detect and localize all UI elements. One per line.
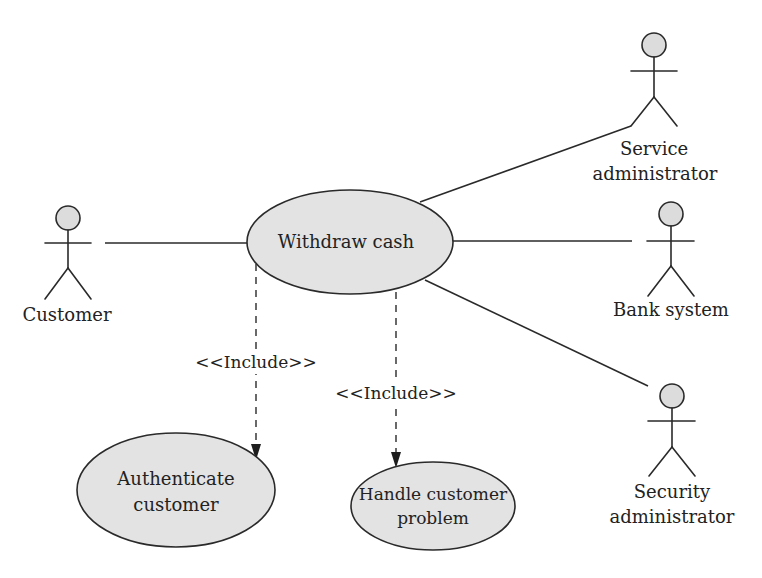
actor-security-administrator-label-line2: administrator xyxy=(610,506,735,527)
usecase-handle-customer-problem[interactable]: Handle customer problem xyxy=(351,462,515,550)
stick-figure-icon xyxy=(45,206,91,299)
use-case-diagram: <<Include>> <<Include>> Withdraw cash Au… xyxy=(0,0,762,578)
usecase-handle-customer-problem-ellipse xyxy=(351,462,515,550)
usecase-withdraw-cash[interactable]: Withdraw cash xyxy=(247,190,453,294)
actor-service-administrator[interactable]: Service administrator xyxy=(593,33,718,184)
usecase-authenticate-customer-ellipse xyxy=(77,433,275,547)
actor-customer-label: Customer xyxy=(23,304,112,325)
actor-service-administrator-label-line2: administrator xyxy=(593,163,718,184)
usecase-handle-customer-problem-label-line2: problem xyxy=(397,508,469,528)
association-withdraw-security-admin xyxy=(425,280,648,386)
actor-bank-system[interactable]: Bank system xyxy=(613,202,729,320)
actor-customer[interactable]: Customer xyxy=(23,206,112,325)
usecase-authenticate-customer[interactable]: Authenticate customer xyxy=(77,433,275,547)
include-label-handle-problem: <<Include>> xyxy=(335,381,457,405)
include-label-authenticate: <<Include>> xyxy=(195,350,317,374)
usecase-withdraw-cash-label: Withdraw cash xyxy=(278,231,415,252)
stick-figure-icon xyxy=(647,202,694,296)
usecase-authenticate-customer-label-line1: Authenticate xyxy=(116,468,234,489)
actor-security-administrator[interactable]: Security administrator xyxy=(610,384,735,527)
usecase-handle-customer-problem-label-line1: Handle customer xyxy=(359,484,508,504)
include-label-authenticate-text: <<Include>> xyxy=(195,352,317,372)
include-label-handle-problem-text: <<Include>> xyxy=(335,383,457,403)
actor-security-administrator-label-line1: Security xyxy=(634,481,711,502)
actor-bank-system-label: Bank system xyxy=(613,299,729,320)
actor-service-administrator-label-line1: Service xyxy=(620,138,688,159)
stick-figure-icon xyxy=(648,384,695,476)
stick-figure-icon xyxy=(631,33,677,126)
usecase-authenticate-customer-label-line2: customer xyxy=(133,494,219,515)
